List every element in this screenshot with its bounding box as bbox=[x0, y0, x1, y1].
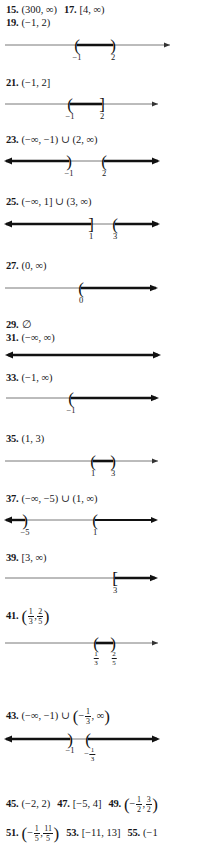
number-line-35: ( ) 1 3 bbox=[0, 449, 200, 483]
answer-row-19: 19.(−1, 2) bbox=[6, 16, 198, 29]
answer-expression-21: (−1, 2] bbox=[22, 77, 51, 88]
answer-row-23: 23.(−∞, −1) ∪ (2, ∞) bbox=[6, 133, 198, 146]
fraction-three-halves: 32 bbox=[146, 795, 152, 814]
answer-row-45-47-49: 45.(−2, 2)47.[−5, 4]49.(−12,32) bbox=[6, 795, 198, 814]
answer-number-15: 15. bbox=[6, 4, 19, 15]
minus-sign: − bbox=[78, 710, 84, 721]
answer-number-53: 53. bbox=[66, 827, 79, 838]
number-line-graph: ( bbox=[0, 276, 200, 310]
answer-number-33: 33. bbox=[6, 372, 19, 383]
tick-label: −1 bbox=[65, 746, 74, 755]
paren-close: ) bbox=[104, 712, 110, 722]
answer-number-51: 51. bbox=[6, 827, 19, 838]
fraction-two-fifths: 25 bbox=[111, 650, 117, 667]
number-line-43: ) ( −1 −13 bbox=[0, 727, 200, 775]
tick-label: −5 bbox=[20, 528, 29, 537]
paren-close: ) bbox=[152, 800, 158, 810]
tick-label: 2 bbox=[102, 169, 106, 178]
number-line-graph: ] ( bbox=[0, 212, 200, 246]
answer-expression-25: (−∞, 1] ∪ (3, ∞) bbox=[22, 196, 92, 207]
tick-label: 1 bbox=[89, 232, 93, 241]
answer-row-51-53-55: 51.(−15,115)53.[−11, 13]55.(−1 bbox=[6, 824, 198, 843]
paren-open: ( bbox=[22, 829, 28, 839]
minus-sign: − bbox=[130, 798, 136, 809]
fraction-denominator: 3 bbox=[28, 617, 34, 626]
answer-expression-15: (300, ∞) bbox=[22, 4, 57, 15]
fraction-one-third: 13 bbox=[90, 746, 96, 763]
number-line-graph: [ bbox=[0, 566, 200, 600]
minus-sign: − bbox=[84, 748, 89, 758]
number-line-25: ] ( 1 3 bbox=[0, 212, 200, 246]
number-line-33: ( −1 bbox=[0, 386, 200, 420]
number-line-37: ) ( −5 1 bbox=[0, 508, 200, 542]
tick-label: 25 bbox=[111, 650, 118, 667]
answer-row-43: 43.(−∞, −1) ∪(−13, ∞) bbox=[6, 707, 198, 726]
tail-infinity: , ∞ bbox=[91, 710, 104, 721]
answer-expression-29: ∅ bbox=[22, 319, 32, 330]
fraction-one-half: 12 bbox=[136, 795, 142, 814]
answer-expression-27: (0, ∞) bbox=[22, 260, 47, 271]
number-line-21: ( ] −1 2 bbox=[0, 92, 200, 126]
number-line-graph: ) ( bbox=[0, 727, 200, 761]
tick-label: 3 bbox=[111, 469, 115, 478]
tick-label: 2 bbox=[111, 53, 115, 62]
number-line-graph: ( ) bbox=[0, 33, 200, 67]
paren-close: ) bbox=[44, 612, 50, 622]
answer-number-25: 25. bbox=[6, 196, 19, 207]
paren-open: ( bbox=[73, 712, 79, 722]
fraction-two-fifths: 25 bbox=[37, 607, 43, 626]
answer-expression-35: (1, 3) bbox=[22, 433, 45, 444]
tick-label: 3 bbox=[113, 586, 117, 595]
answer-number-21: 21. bbox=[6, 77, 19, 88]
answer-number-29: 29. bbox=[6, 319, 19, 330]
answer-row-21: 21.(−1, 2] bbox=[6, 76, 198, 89]
answer-row-29: 29.∅ bbox=[6, 318, 198, 331]
tick-label: 1 bbox=[91, 469, 95, 478]
fraction-one-fifth: 15 bbox=[34, 824, 40, 843]
fraction-eleven-fifths: 115 bbox=[43, 824, 53, 843]
answer-row-33: 33.(−1, ∞) bbox=[6, 371, 198, 384]
fraction-denominator: 5 bbox=[37, 617, 43, 626]
answer-row-37: 37.(−∞, −5) ∪ (1, ∞) bbox=[6, 492, 198, 505]
tick-label: 3 bbox=[113, 232, 117, 241]
tick-label: 13 bbox=[93, 650, 100, 667]
fraction-one-third: 13 bbox=[85, 707, 91, 726]
tick-label: −1 bbox=[72, 53, 81, 62]
answer-number-41: 41. bbox=[6, 610, 19, 621]
answer-number-39: 39. bbox=[6, 552, 19, 563]
answer-number-55: 55. bbox=[127, 827, 140, 838]
answer-row-25: 25.(−∞, 1] ∪ (3, ∞) bbox=[6, 195, 198, 208]
tick-label: −1 bbox=[66, 406, 75, 415]
number-line-graph: ( ) bbox=[0, 449, 200, 483]
answer-number-45: 45. bbox=[6, 798, 19, 809]
number-line-23: ) ( −1 2 bbox=[0, 149, 200, 183]
answer-number-43: 43. bbox=[6, 710, 19, 721]
answer-number-23: 23. bbox=[6, 134, 19, 145]
answer-expression-19: (−1, 2) bbox=[22, 17, 51, 28]
number-line-39: [ 3 bbox=[0, 566, 200, 600]
answer-row-41: 41.(13,25) bbox=[6, 607, 198, 626]
answer-number-27: 27. bbox=[6, 260, 19, 271]
answer-number-49: 49. bbox=[108, 798, 121, 809]
answer-expression-33: (−1, ∞) bbox=[22, 372, 53, 383]
answer-row-39: 39.[3, ∞) bbox=[6, 551, 198, 564]
answer-number-35: 35. bbox=[6, 433, 19, 444]
answer-row-35: 35.(1, 3) bbox=[6, 432, 198, 445]
tick-label: −13 bbox=[84, 746, 95, 763]
fraction-numerator: 2 bbox=[37, 607, 43, 617]
number-line-41: ( ) 13 25 bbox=[0, 631, 200, 679]
paren-close: ) bbox=[53, 829, 59, 839]
answer-number-19: 19. bbox=[6, 17, 19, 28]
answer-number-17: 17. bbox=[64, 4, 77, 15]
paren-open: ( bbox=[124, 800, 130, 810]
answer-number-37: 37. bbox=[6, 493, 19, 504]
answer-expression-39: [3, ∞) bbox=[22, 552, 47, 563]
paren-open: ( bbox=[22, 612, 28, 622]
answer-expression-53: [−11, 13] bbox=[82, 827, 121, 838]
number-line-27: ( 0 bbox=[0, 276, 200, 310]
number-line-graph: ( ) bbox=[0, 631, 200, 665]
answer-expression-lead: (−∞, −1) ∪ bbox=[22, 710, 70, 721]
fraction-numerator: 1 bbox=[28, 607, 34, 617]
tick-label: 0 bbox=[79, 296, 83, 305]
answer-expression-31: (−∞, ∞) bbox=[22, 332, 55, 343]
